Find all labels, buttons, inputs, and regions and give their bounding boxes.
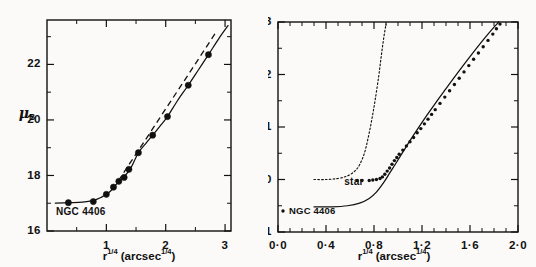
- data-point: [381, 175, 384, 178]
- data-point: [491, 32, 494, 35]
- data-point: [453, 83, 456, 86]
- data-point: [482, 45, 485, 48]
- x-unit-close-left: ): [172, 250, 176, 262]
- x-unit-close-right: ): [427, 250, 431, 262]
- y-tick-label: 0: [268, 173, 272, 185]
- data-point: [486, 39, 489, 42]
- x-unit-open-right: (arcsec: [373, 250, 417, 262]
- star-psf-dotted: [314, 24, 386, 179]
- data-point: [434, 108, 437, 111]
- y-tick-label: 3: [268, 15, 272, 27]
- r-quarter-law-dashed: [118, 31, 217, 181]
- data-point: [467, 64, 470, 67]
- x-unit-open-left: (arcsec: [118, 250, 162, 262]
- right-legend-ngc: NGC 4406: [281, 205, 335, 216]
- data-point: [448, 89, 451, 92]
- data-point: [472, 58, 475, 61]
- data-point: [393, 159, 396, 162]
- data-point: [419, 127, 422, 130]
- observed-data-points: [356, 22, 502, 182]
- x-tick-label: 0·0: [269, 239, 287, 251]
- left-x-axis-label: r1/4 (arcsec1/4): [103, 247, 176, 262]
- data-point: [388, 166, 391, 169]
- data-point: [416, 131, 419, 134]
- x-tick-label: 0·4: [317, 239, 335, 251]
- data-point: [368, 179, 371, 182]
- model-profile-curve: [314, 22, 499, 207]
- right-plot-frame: [278, 22, 518, 232]
- x-tick-label: 3: [222, 239, 229, 251]
- x-tick-label: 1·6: [461, 239, 479, 251]
- svg-text:r1/4 (arcsec1/4): r1/4 (arcsec1/4): [358, 247, 431, 262]
- right-tick-labels: 0·00·40·81·21·62·0-10123: [268, 15, 527, 251]
- left-tick-labels: 12316182022: [27, 57, 228, 251]
- data-point: [498, 22, 501, 25]
- data-point: [401, 148, 404, 151]
- data-point: [477, 51, 480, 54]
- chart-panel-right: 0·00·40·81·21·62·0-10123 μV r1/4 (arcsec…: [268, 0, 536, 267]
- fitted-profile-curve: [55, 26, 228, 204]
- y-tick-label: 2: [268, 68, 272, 80]
- data-point: [423, 122, 426, 125]
- data-point: [443, 95, 446, 98]
- right-annotation-ngc: NGC 4406: [289, 205, 335, 216]
- chart-panel-left: 12316182022 μB r1/4 (arcsec1/4) NGC 4406: [0, 0, 268, 267]
- data-point: [438, 102, 441, 105]
- left-data-series: [55, 26, 228, 206]
- data-point: [408, 140, 411, 143]
- data-point: [426, 117, 429, 120]
- left-annotation-ngc: NGC 4406: [56, 206, 106, 217]
- y-tick-label: 18: [27, 169, 41, 181]
- data-point: [495, 27, 498, 30]
- right-annotation-star: star: [344, 176, 364, 187]
- y-tick-label: 16: [27, 224, 41, 236]
- x-tick-label: 2·0: [509, 239, 527, 251]
- right-data-series: [314, 22, 502, 207]
- y-tick-label: -1: [268, 225, 272, 237]
- data-point: [390, 163, 393, 166]
- legend-dot-marker: [281, 209, 284, 212]
- observed-profile-points: [65, 52, 211, 206]
- y-tick-label: 22: [27, 57, 41, 69]
- svg-text:r1/4 (arcsec1/4): r1/4 (arcsec1/4): [103, 247, 176, 262]
- data-point: [386, 169, 389, 172]
- data-point: [405, 144, 408, 147]
- data-point: [383, 173, 386, 176]
- data-point: [430, 113, 433, 116]
- left-y-axis-label: μB: [19, 105, 35, 122]
- y-tick-label: 1: [268, 120, 272, 132]
- data-point: [395, 156, 398, 159]
- data-point: [462, 70, 465, 73]
- data-point: [375, 178, 378, 181]
- left-plot-svg: 12316182022 μB r1/4 (arcsec1/4) NGC 4406: [0, 0, 268, 267]
- data-point: [398, 153, 401, 156]
- data-point: [458, 76, 461, 79]
- data-point: [371, 178, 374, 181]
- mu-subscript-left: B: [29, 112, 35, 122]
- mu-symbol-left: μ: [19, 105, 29, 121]
- figure-canvas: 12316182022 μB r1/4 (arcsec1/4) NGC 4406: [0, 0, 536, 267]
- right-axis-ticks: [278, 22, 518, 232]
- right-x-axis-label: r1/4 (arcsec1/4): [358, 247, 431, 262]
- data-point: [412, 136, 415, 139]
- right-plot-svg: 0·00·40·81·21·62·0-10123 μV r1/4 (arcsec…: [268, 0, 536, 267]
- svg-text:μB: μB: [19, 105, 35, 122]
